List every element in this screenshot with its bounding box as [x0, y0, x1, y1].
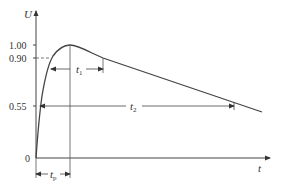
- tp-label: tp: [50, 168, 57, 182]
- origin-label: 0: [25, 153, 30, 164]
- t2-label: t2: [130, 100, 137, 114]
- y-tick-label-1-00: 1.00: [9, 40, 27, 51]
- t1-label: t1: [76, 63, 83, 77]
- y-tick-label-0-55: 0.55: [9, 101, 27, 112]
- diagram-svg: U t 0 1.00 0.90 0.55 t1 t2 tp: [0, 0, 284, 190]
- y-axis-label: U: [24, 8, 33, 20]
- waveform-diagram: U t 0 1.00 0.90 0.55 t1 t2 tp: [0, 0, 284, 190]
- y-tick-label-0-90: 0.90: [9, 53, 27, 64]
- x-axis-label: t: [258, 162, 262, 174]
